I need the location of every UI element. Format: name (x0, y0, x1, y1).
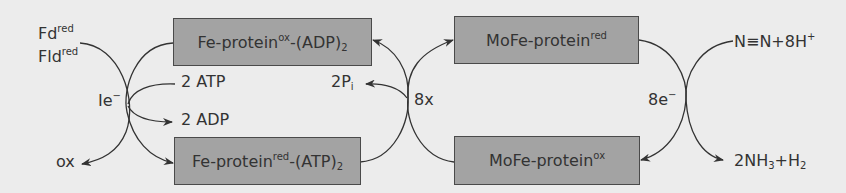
box-label: MoFe-proteinred (486, 31, 607, 50)
mofe-protein-red-box: MoFe-proteinred (454, 16, 639, 64)
eight-electrons-label: 8e− (648, 90, 676, 109)
ferredoxin-label: Fdred (38, 24, 74, 43)
box-label: MoFe-proteinox (489, 151, 605, 170)
oxidized-label: ox (56, 152, 75, 171)
electron-label: Ie− (98, 91, 121, 110)
box-label: Fe-proteinox-(ADP)2 (197, 33, 347, 52)
adp-label: 2 ADP (181, 110, 229, 129)
flavodoxin-label: Fldred (38, 47, 78, 66)
dinitrogen-label: N≡N+8H+ (734, 32, 815, 51)
box-label: Fe-proteinred-(ATP)2 (192, 152, 343, 171)
eight-times-label: 8x (414, 90, 434, 109)
atp-label: 2 ATP (181, 72, 225, 91)
fe-protein-red-atp-box: Fe-proteinred-(ATP)2 (174, 137, 361, 185)
mofe-protein-ox-box: MoFe-proteinox (454, 136, 640, 185)
phosphate-label: 2Pi (331, 72, 354, 91)
ammonia-hydrogen-label: 2NH3+H2 (734, 151, 806, 170)
fe-protein-ox-adp-box: Fe-proteinox-(ADP)2 (173, 18, 372, 66)
